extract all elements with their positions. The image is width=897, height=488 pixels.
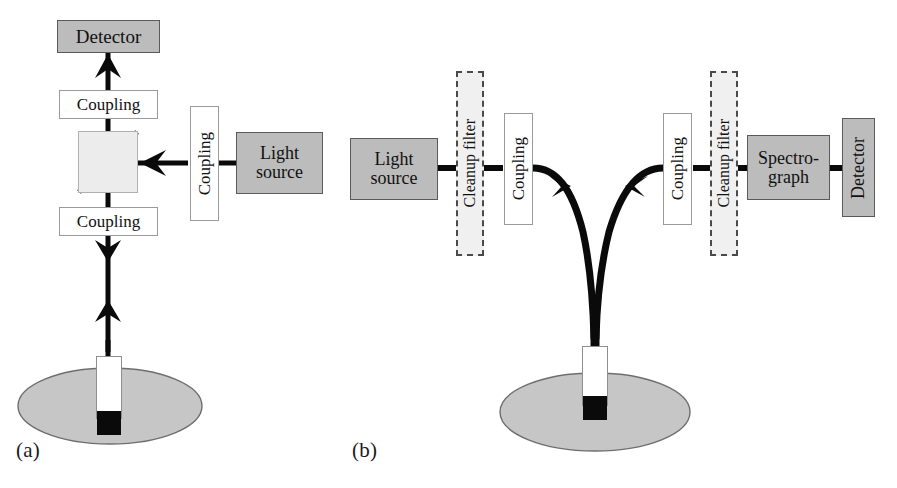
- panel-b-cleanup-filter-excitation-box[interactable]: Cleanup filter: [456, 71, 484, 256]
- panel-b-detector-box[interactable]: Detector: [842, 118, 875, 217]
- panel-b-spectrograph-label-line2: graph: [768, 168, 809, 187]
- panel-b-label: (b): [352, 438, 377, 463]
- figure-canvas: Detector Coupling Coupling Coupling Ligh…: [0, 0, 897, 488]
- panel-b-spectrograph-label-line1: Spectro-: [758, 149, 819, 168]
- panel-a-coupling-bottom-label: Coupling: [77, 213, 140, 231]
- panel-b-fiber-excitation-branch: [533, 168, 594, 338]
- panel-b-cleanup-filter-collection-box[interactable]: Cleanup filter: [710, 71, 738, 256]
- panel-b-coupling-excitation-label: Coupling: [510, 137, 528, 200]
- panel-a-label: (a): [16, 438, 40, 463]
- panel-b-coupling-excitation-box[interactable]: Coupling: [504, 113, 533, 225]
- panel-a-coupling-source-box[interactable]: Coupling: [190, 106, 219, 221]
- panel-b-light-source-label-line1: Light: [375, 150, 414, 169]
- panel-b-light-source-label-line2: source: [371, 169, 418, 188]
- panel-b-fiber-collection-branch: [596, 168, 663, 338]
- panel-a-detector-label: Detector: [76, 27, 141, 47]
- panel-a-light-source-label-line1: Light: [260, 144, 299, 163]
- panel-a-coupling-top-box[interactable]: Coupling: [59, 90, 158, 119]
- panel-a-light-source-box[interactable]: Light source: [236, 132, 323, 194]
- diagram-vector-layer: [0, 0, 897, 488]
- panel-b-coupling-collection-label: Coupling: [669, 137, 687, 200]
- panel-a-coupling-top-label: Coupling: [77, 96, 140, 114]
- panel-a-light-source-label-line2: source: [256, 163, 303, 182]
- panel-a-probe-tip: [97, 411, 121, 435]
- panel-a-probe-body[interactable]: [96, 356, 122, 419]
- panel-b-spectrograph-box[interactable]: Spectro- graph: [747, 135, 830, 200]
- panel-a-coupling-source-label: Coupling: [196, 132, 214, 195]
- panel-b-cleanup-filter-collection-label: Cleanup filter: [716, 119, 733, 207]
- panel-b-coupling-collection-box[interactable]: Coupling: [663, 113, 692, 225]
- panel-b-cleanup-filter-excitation-label: Cleanup filter: [462, 119, 479, 207]
- panel-a-beamsplitter-cube[interactable]: [78, 131, 138, 193]
- panel-b-light-source-box[interactable]: Light source: [350, 138, 438, 200]
- panel-b-probe-tip: [583, 396, 607, 420]
- panel-a-coupling-bottom-box[interactable]: Coupling: [59, 207, 158, 236]
- panel-a-detector-box[interactable]: Detector: [57, 20, 160, 53]
- panel-b-detector-label: Detector: [849, 137, 868, 199]
